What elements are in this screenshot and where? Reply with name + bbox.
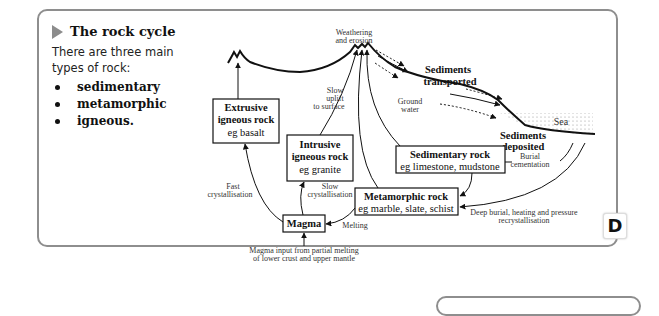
ground-water-label-2: water xyxy=(401,105,419,114)
section-badge: D xyxy=(603,213,627,239)
magma-input-label-2: of lower crust and upper mantle xyxy=(253,254,355,263)
intrusive-title-2: igneous rock xyxy=(292,151,349,162)
slow-crystallisation-label-2: crystallisation xyxy=(308,190,353,199)
sediments-deposited-label: Sediments xyxy=(500,130,546,141)
sedimentary-title: Sedimentary rock xyxy=(410,149,490,160)
fast-crystallisation-arrow xyxy=(245,144,283,222)
weathering-label-2: and erosion xyxy=(335,36,372,45)
metamorphic-title: Metamorphic rock xyxy=(364,191,448,202)
metamorphic-uplift-arrow xyxy=(358,50,378,188)
extrusive-title-2: igneous rock xyxy=(218,114,275,125)
groundwater-arrow xyxy=(440,104,496,118)
magma-title: Magma xyxy=(287,218,322,229)
next-panel xyxy=(436,296,641,316)
intrusive-igneous-box: Intrusive igneous rock eg granite xyxy=(287,135,353,181)
slow-crystallisation-arrow xyxy=(301,182,304,215)
fast-crystallisation-label-2: crystallisation xyxy=(208,190,253,199)
extrusive-example: eg basalt xyxy=(227,127,264,138)
erosion-arrow xyxy=(378,56,408,72)
slow-uplift-label-3: to surface xyxy=(313,102,345,111)
deep-burial-label-2: recrystallisation xyxy=(498,216,549,225)
extrusive-title: Extrusive xyxy=(224,102,268,113)
sedimentary-to-metamorphic-arrow xyxy=(460,173,472,196)
burial-curve xyxy=(560,143,573,161)
burial-label-2: cementation xyxy=(510,160,549,169)
intrusive-example: eg granite xyxy=(299,164,341,175)
metamorphic-example: eg marble, slate, schist xyxy=(358,203,453,214)
extrusive-igneous-box: Extrusive igneous rock eg basalt xyxy=(213,99,279,143)
metamorphic-rock-box: Metamorphic rock eg marble, slate, schis… xyxy=(355,188,458,215)
sediments-transported-label-2: transported xyxy=(423,76,476,87)
sedimentary-rock-box: Sedimentary rock eg limestone, mudstone xyxy=(396,146,505,173)
intrusive-title: Intrusive xyxy=(300,139,341,150)
sediments-deposited-label-2: deposited xyxy=(502,141,545,152)
sea-label: Sea xyxy=(554,116,569,127)
sediments-transported-label: Sediments xyxy=(425,64,471,75)
melting-label: Melting xyxy=(342,221,367,230)
sedimentary-example: eg limestone, mudstone xyxy=(400,161,500,172)
sedimentary-uplift-arrow xyxy=(367,50,400,146)
magma-box: Magma xyxy=(283,215,325,232)
